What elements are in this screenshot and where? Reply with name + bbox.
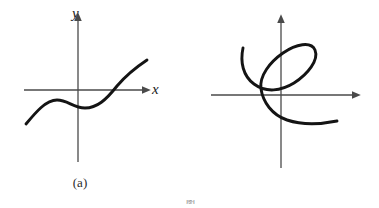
panel-a-y-axis-label: y: [72, 6, 79, 21]
panel-b-curve: [242, 45, 337, 124]
panel-a-curve: [26, 60, 147, 124]
panel-b-plot: [189, 0, 379, 208]
panel-a-caption: (a): [50, 176, 110, 189]
panel-b: y x (b): [189, 0, 379, 208]
figure-caption-stub: 图: [167, 200, 213, 204]
panel-a-x-axis-label: x: [152, 82, 159, 97]
figure-root: y x (a) y x (b) 图: [0, 0, 379, 208]
panel-a: y x (a): [0, 0, 190, 208]
